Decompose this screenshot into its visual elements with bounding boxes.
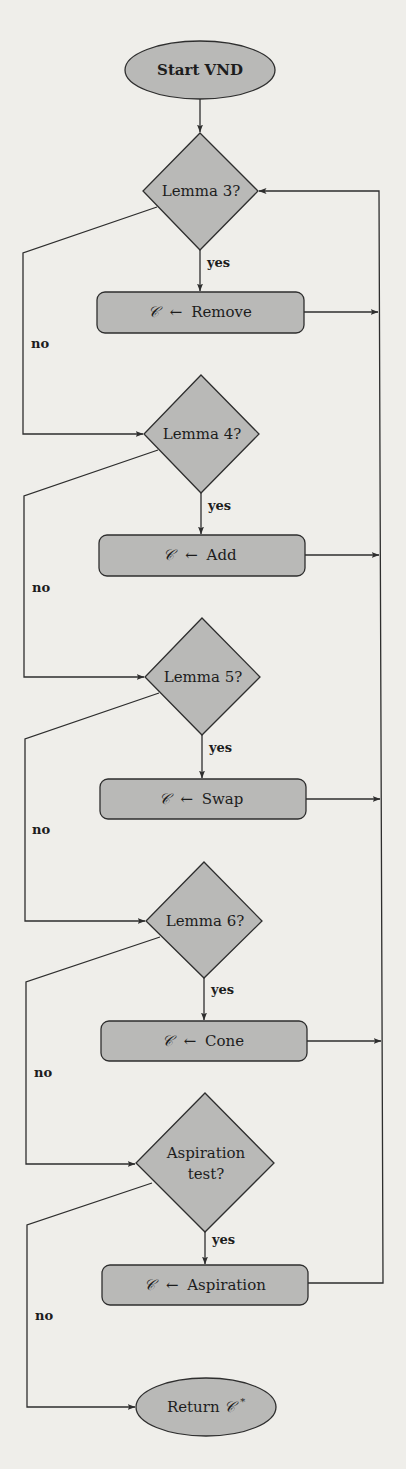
decision-lemma6: Lemma 6? bbox=[146, 862, 262, 978]
edge-label-lemma4-yes: yes bbox=[207, 498, 231, 513]
action-swap: 𝒞 ← Swap bbox=[100, 779, 306, 819]
edge-label-lemma6-no: no bbox=[34, 1065, 52, 1080]
assign-arrow: ← bbox=[166, 1276, 179, 1294]
decision-label: Lemma 4? bbox=[163, 425, 242, 443]
operation-name: Cone bbox=[205, 1032, 244, 1050]
action-label: 𝒞 ← Add bbox=[163, 546, 237, 564]
end-label: Return 𝒞 * bbox=[167, 1396, 245, 1417]
edge-label-lemma4-no: no bbox=[32, 580, 50, 595]
edge-label-lemma5-yes: yes bbox=[208, 740, 232, 755]
edge-label-aspiration-test-yes: yes bbox=[211, 1232, 235, 1247]
action-label: 𝒞 ← Remove bbox=[148, 303, 252, 321]
edge-label-lemma3-no: no bbox=[31, 336, 49, 351]
start-node: Start VND bbox=[125, 41, 275, 99]
operation-name: Remove bbox=[191, 303, 252, 321]
set-symbol: 𝒞 bbox=[224, 1398, 239, 1416]
action-label: 𝒞 ← Swap bbox=[159, 790, 244, 808]
decision-label: Lemma 5? bbox=[164, 668, 243, 686]
decision-lemma4: Lemma 4? bbox=[144, 375, 259, 493]
edge-label-aspiration-test-no: no bbox=[35, 1308, 53, 1323]
operation-name: Add bbox=[206, 546, 237, 564]
decision-aspiration-test: Aspiration test? bbox=[136, 1093, 274, 1232]
set-symbol: 𝒞 bbox=[148, 303, 163, 321]
operation-name: Swap bbox=[202, 790, 244, 808]
assign-arrow: ← bbox=[185, 546, 198, 564]
edge-aspiration-to-lemma3-loop bbox=[259, 191, 383, 1283]
decision-lemma5: Lemma 5? bbox=[145, 618, 260, 735]
decision-label: Lemma 6? bbox=[166, 912, 245, 930]
action-cone: 𝒞 ← Cone bbox=[101, 1021, 307, 1061]
flowchart-canvas: yes no yes no yes no yes no yes no Start… bbox=[0, 0, 406, 1469]
action-remove: 𝒞 ← Remove bbox=[97, 292, 304, 333]
optimal-superscript: * bbox=[240, 1396, 245, 1407]
set-symbol: 𝒞 bbox=[163, 546, 178, 564]
set-symbol: 𝒞 bbox=[162, 1032, 177, 1050]
start-label: Start VND bbox=[157, 61, 243, 79]
set-symbol: 𝒞 bbox=[159, 790, 174, 808]
decision-lemma3: Lemma 3? bbox=[143, 133, 258, 250]
end-label-prefix: Return bbox=[167, 1398, 224, 1416]
action-aspiration: 𝒞 ← Aspiration bbox=[102, 1265, 308, 1305]
decision-label-line2: test? bbox=[188, 1165, 225, 1183]
assign-arrow: ← bbox=[180, 790, 193, 808]
operation-name: Aspiration bbox=[186, 1276, 266, 1294]
decision-label: Lemma 3? bbox=[162, 182, 241, 200]
decision-diamond bbox=[136, 1093, 274, 1232]
flowchart-svg: yes no yes no yes no yes no yes no Start… bbox=[0, 0, 406, 1469]
action-box bbox=[101, 1021, 307, 1061]
edge-label-lemma3-yes: yes bbox=[206, 255, 230, 270]
action-add: 𝒞 ← Add bbox=[99, 535, 305, 576]
assign-arrow: ← bbox=[170, 303, 183, 321]
edge-label-lemma5-no: no bbox=[32, 822, 50, 837]
end-node: Return 𝒞 * bbox=[136, 1378, 276, 1436]
decision-label-line1: Aspiration bbox=[166, 1144, 246, 1162]
assign-arrow: ← bbox=[184, 1032, 197, 1050]
set-symbol: 𝒞 bbox=[144, 1276, 159, 1294]
edge-label-lemma6-yes: yes bbox=[210, 982, 234, 997]
